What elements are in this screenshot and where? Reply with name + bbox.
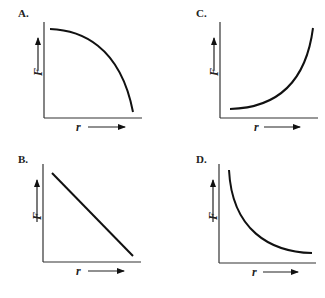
panel-b: B. F r <box>18 153 141 278</box>
panel-d: D. F r <box>196 153 316 279</box>
panel-a-curve <box>50 29 133 112</box>
panel-d-y-label: F <box>206 212 220 221</box>
panel-a-y-label: F <box>31 68 45 77</box>
figure-canvas: A. F r C. F r B. F r D. F r <box>0 0 325 298</box>
panel-c-x-label: r <box>254 120 259 134</box>
panel-d-x-label: r <box>252 265 257 279</box>
panel-a: A. F r <box>18 7 142 134</box>
panel-d-label: D. <box>196 153 207 165</box>
panel-b-line <box>52 173 133 256</box>
panel-c-label: C. <box>196 7 207 19</box>
panel-b-y-label: F <box>30 212 44 221</box>
panel-c-curve <box>230 28 313 109</box>
panel-d-curve <box>229 170 312 253</box>
panel-b-x-label: r <box>76 264 81 278</box>
panel-b-label: B. <box>18 153 28 165</box>
panel-c: C. F r <box>196 7 318 134</box>
panel-c-y-label: F <box>207 68 221 77</box>
panel-a-label: A. <box>18 7 29 19</box>
panel-a-x-label: r <box>76 120 81 134</box>
